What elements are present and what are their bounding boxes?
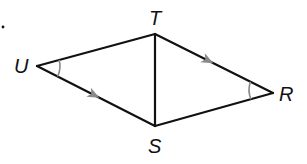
angle-mark-U bbox=[58, 60, 61, 77]
parallel-arrow-US bbox=[86, 88, 101, 102]
geometry-diagram: U T R S bbox=[0, 0, 307, 164]
parallel-arrow-TR bbox=[200, 53, 215, 67]
vertex-label-T: T bbox=[149, 7, 163, 29]
vertex-label-S: S bbox=[148, 135, 162, 157]
segment-UT bbox=[37, 34, 155, 66]
angle-mark-R bbox=[249, 82, 251, 99]
segment-TR bbox=[155, 34, 273, 93]
vertex-label-R: R bbox=[279, 83, 293, 105]
segment-RS bbox=[155, 93, 273, 126]
vertex-label-U: U bbox=[14, 55, 29, 77]
stray-dot bbox=[2, 26, 5, 29]
